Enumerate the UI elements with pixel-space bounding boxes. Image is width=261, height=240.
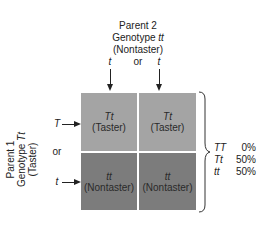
cell-genotype: tt bbox=[106, 171, 112, 182]
result-genotype: tt bbox=[214, 166, 232, 178]
parent1-or: or bbox=[50, 146, 64, 157]
result-row: Tt 50% bbox=[214, 154, 256, 166]
cell-genotype: tt bbox=[165, 171, 171, 182]
cell-bottom-left: tt (Nontaster) bbox=[81, 153, 137, 210]
parent1-allele-top: T bbox=[52, 118, 62, 129]
result-row: TT 0% bbox=[214, 142, 256, 154]
cell-phenotype: (Taster) bbox=[92, 122, 126, 133]
parent2-or: or bbox=[128, 56, 148, 67]
genotype-label: Genotype bbox=[112, 32, 155, 43]
parent2-phenotype: (Nontaster) bbox=[98, 44, 178, 55]
result-genotype: TT bbox=[214, 142, 232, 154]
parent2-genotype: Genotype tt bbox=[98, 32, 178, 43]
cell-phenotype: (Nontaster) bbox=[84, 182, 134, 193]
result-percent: 50% bbox=[232, 166, 256, 178]
cell-top-right: Tt (Taster) bbox=[139, 93, 196, 151]
result-genotype: Tt bbox=[214, 154, 232, 166]
parent1-title: Parent 1 bbox=[5, 112, 16, 208]
parent2-allele-left: t bbox=[105, 56, 115, 67]
result-percent: 0% bbox=[232, 142, 256, 154]
result-row: tt 50% bbox=[214, 166, 256, 178]
result-percent: 50% bbox=[232, 154, 256, 166]
parent1-allele-bottom: t bbox=[52, 176, 62, 187]
genotype-label: Genotype bbox=[16, 144, 27, 187]
cell-phenotype: (Taster) bbox=[151, 122, 185, 133]
parent2-title: Parent 2 bbox=[98, 20, 178, 31]
cell-bottom-right: tt (Nontaster) bbox=[139, 153, 196, 210]
genotype-value: Tt bbox=[16, 132, 27, 141]
punnett-square: Tt (Taster) Tt (Taster) tt (Nontaster) t… bbox=[81, 93, 196, 210]
genotype-value: tt bbox=[158, 32, 164, 43]
cell-top-left: Tt (Taster) bbox=[81, 93, 137, 151]
parent1-phenotype: (Taster) bbox=[27, 112, 38, 208]
cell-genotype: Tt bbox=[105, 111, 114, 122]
results-list: TT 0% Tt 50% tt 50% bbox=[214, 142, 256, 178]
parent1-genotype: Genotype Tt bbox=[16, 112, 27, 208]
cell-genotype: Tt bbox=[163, 111, 172, 122]
parent1-label: Parent 1 Genotype Tt (Taster) bbox=[5, 112, 38, 208]
brace-icon bbox=[197, 91, 211, 213]
cell-phenotype: (Nontaster) bbox=[142, 182, 192, 193]
parent2-allele-right: t bbox=[154, 56, 164, 67]
